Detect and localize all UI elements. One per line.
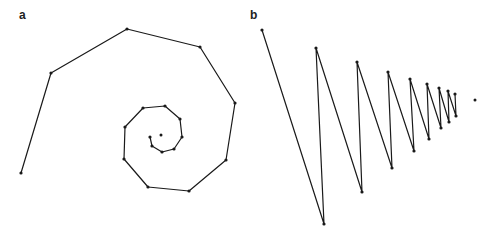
vertex-dot bbox=[178, 117, 181, 120]
vertex-dot bbox=[355, 60, 358, 63]
vertex-dot bbox=[19, 171, 22, 174]
vertex-dot bbox=[386, 70, 389, 73]
vertex-dot bbox=[172, 147, 175, 150]
vertex-dot bbox=[453, 92, 456, 95]
vertex-dot bbox=[322, 222, 325, 225]
vertex-dot bbox=[198, 45, 201, 48]
vertex-dot bbox=[408, 77, 411, 80]
diagram-canvas bbox=[0, 0, 489, 235]
vertex-dot bbox=[447, 120, 450, 123]
vertex-dot bbox=[49, 71, 52, 74]
vertex-dot bbox=[150, 144, 153, 147]
vertex-dot bbox=[233, 101, 236, 104]
vertex-dot bbox=[180, 135, 183, 138]
vertex-dot bbox=[125, 27, 128, 30]
vertex-dot bbox=[427, 137, 430, 140]
panel-b-zigzag bbox=[260, 28, 476, 225]
vertex-dot bbox=[148, 135, 151, 138]
vertex-dot bbox=[122, 157, 125, 160]
vertex-dot bbox=[425, 82, 428, 85]
vertex-dot bbox=[454, 114, 457, 117]
vertex-dot bbox=[314, 46, 317, 49]
center-point-dot bbox=[474, 99, 477, 102]
vertex-dot bbox=[439, 126, 442, 129]
zigzag-path bbox=[262, 30, 456, 224]
vertex-dot bbox=[446, 89, 449, 92]
spiral-path bbox=[21, 29, 235, 191]
vertex-dot bbox=[437, 86, 440, 89]
vertex-dot bbox=[260, 28, 263, 31]
vertex-dot bbox=[146, 185, 149, 188]
vertex-dot bbox=[163, 104, 166, 107]
vertex-dot bbox=[141, 106, 144, 109]
vertex-dot bbox=[412, 149, 415, 152]
vertex-dot bbox=[390, 166, 393, 169]
panel-a-spiral bbox=[19, 27, 236, 192]
vertex-dot bbox=[187, 189, 190, 192]
vertex-dot bbox=[123, 125, 126, 128]
center-point-dot bbox=[160, 134, 163, 137]
vertex-dot bbox=[360, 190, 363, 193]
vertex-dot bbox=[224, 158, 227, 161]
vertex-dot bbox=[160, 150, 163, 153]
